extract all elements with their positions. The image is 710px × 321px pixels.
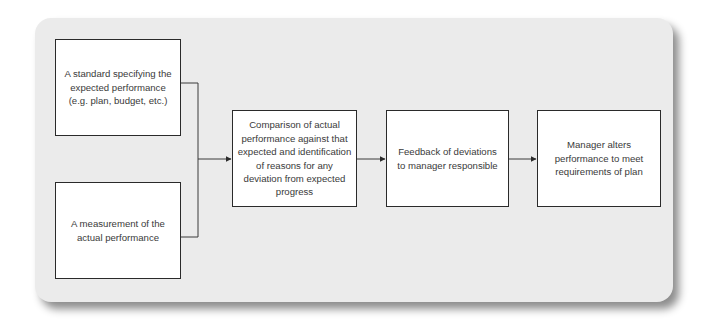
node-feedback-label: Feedback of deviations to manager respon… xyxy=(395,145,500,172)
node-measurement-label: A measurement of the actual performance xyxy=(64,217,172,244)
node-manager-label: Manager alters performance to meet requi… xyxy=(544,138,654,178)
node-measurement-box: A measurement of the actual performance xyxy=(55,182,181,279)
node-manager-box: Manager alters performance to meet requi… xyxy=(537,110,661,207)
diagram-stage: A standard specifying the expected perfo… xyxy=(0,0,710,321)
node-standard-box: A standard specifying the expected perfo… xyxy=(55,39,181,136)
node-feedback-box: Feedback of deviations to manager respon… xyxy=(386,110,509,207)
node-comparison-label: Comparison of actual performance against… xyxy=(237,118,352,198)
node-standard-label: A standard specifying the expected perfo… xyxy=(64,67,172,107)
node-comparison-box: Comparison of actual performance against… xyxy=(232,110,357,207)
